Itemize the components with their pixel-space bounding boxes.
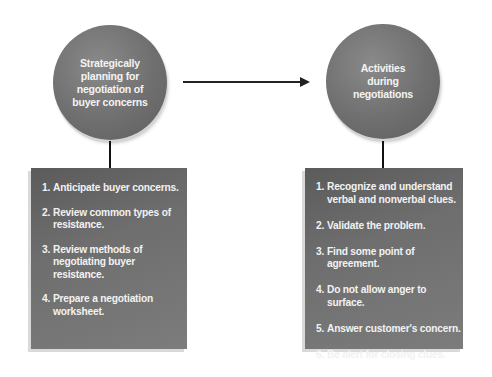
- list-item: 2.Review common types of resistance.: [31, 207, 187, 232]
- planning-stage-label: Strategically planning for negotiation o…: [70, 57, 150, 109]
- list-item: 2.Validate the problem.: [305, 220, 463, 233]
- list-item: 1.Anticipate buyer concerns.: [31, 182, 187, 195]
- negotiation-stage-label: Activities during negotiations: [348, 62, 418, 101]
- list-item: 4.Do not allow anger to surface.: [305, 284, 463, 309]
- planning-stage-circle: Strategically planning for negotiation o…: [53, 25, 167, 140]
- planning-steps-box: 1.Anticipate buyer concerns. 2.Review co…: [31, 168, 187, 349]
- list-item: 5.Answer customer's concern.: [305, 323, 463, 336]
- negotiation-stage-circle: Activities during negotiations: [326, 24, 440, 139]
- list-item: 1.Recognize and understand verbal and no…: [305, 181, 463, 206]
- negotiation-activities-box: 1.Recognize and understand verbal and no…: [305, 168, 463, 349]
- list-item: 4.Prepare a negotiation worksheet.: [31, 293, 187, 318]
- flow-arrow-line: [183, 81, 301, 83]
- planning-steps-list: 1.Anticipate buyer concerns. 2.Review co…: [31, 168, 187, 318]
- arrowhead-icon: [300, 77, 310, 87]
- list-item: 6.Be alert for closing clues.: [305, 349, 463, 362]
- list-item: 3.Find some point of agreement.: [305, 246, 463, 271]
- list-item: 3.Review methods of negotiating buyer re…: [31, 244, 187, 282]
- negotiation-activities-list: 1.Recognize and understand verbal and no…: [305, 168, 463, 361]
- right-connector-line: [382, 141, 384, 168]
- left-connector-line: [109, 141, 111, 168]
